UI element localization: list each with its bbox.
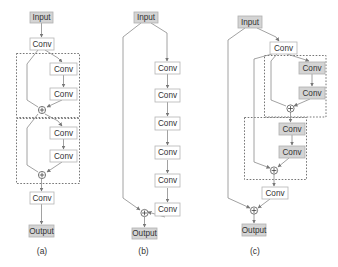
conv-node-block1-2: Conv xyxy=(299,87,325,99)
conv-node-block2-1: Conv xyxy=(279,123,305,135)
panel-b: Input Conv Conv Conv Conv Conv Conv xyxy=(123,12,180,256)
caption-b: (b) xyxy=(138,246,149,256)
conv-node-head: Conv xyxy=(270,42,297,54)
conv-node-5: Conv xyxy=(155,174,180,187)
svg-text:Conv: Conv xyxy=(158,205,178,214)
panel-c: Input Conv Conv Conv Conv Conv xyxy=(228,16,326,256)
svg-text:Conv: Conv xyxy=(158,119,178,128)
output-node: Output xyxy=(242,224,267,236)
conv-node-6: Conv xyxy=(155,203,180,216)
caption-c: (c) xyxy=(250,246,260,256)
output-node: Output xyxy=(29,225,55,237)
conv-node-block1-1: Conv xyxy=(299,62,325,74)
conv-node-2: Conv xyxy=(155,89,180,102)
conv-node-tail: Conv xyxy=(30,192,54,204)
svg-text:Conv: Conv xyxy=(158,176,178,185)
svg-text:Input: Input xyxy=(241,18,260,27)
input-node: Input xyxy=(30,12,53,23)
svg-text:Conv: Conv xyxy=(32,40,52,49)
sum-node xyxy=(141,209,148,216)
conv-node-1: Conv xyxy=(155,62,180,74)
conv-node-block1-2: Conv xyxy=(50,88,77,100)
sum-node-block1 xyxy=(38,106,45,113)
svg-text:Input: Input xyxy=(32,13,51,22)
sum-node-global xyxy=(250,207,257,214)
conv-node-4: Conv xyxy=(155,146,180,159)
conv-node-block2-1: Conv xyxy=(50,127,77,139)
conv-node-tail: Conv xyxy=(262,187,288,199)
input-node: Input xyxy=(134,12,158,23)
conv-node-block2-2: Conv xyxy=(50,150,77,162)
panel-a: Input Conv Conv Conv Conv Conv xyxy=(17,12,80,256)
svg-text:Conv: Conv xyxy=(158,148,178,157)
input-node: Input xyxy=(238,16,262,28)
output-node: Output xyxy=(132,228,158,239)
residual-architectures-diagram: Input Conv Conv Conv Conv Conv xyxy=(0,0,338,267)
svg-text:Output: Output xyxy=(132,229,157,238)
caption-a: (a) xyxy=(37,246,48,256)
svg-text:Conv: Conv xyxy=(54,152,74,161)
svg-text:Input: Input xyxy=(137,13,156,22)
svg-text:Conv: Conv xyxy=(158,64,178,73)
svg-text:Output: Output xyxy=(242,226,267,235)
svg-text:Conv: Conv xyxy=(282,125,302,134)
svg-text:Conv: Conv xyxy=(54,90,74,99)
svg-text:Conv: Conv xyxy=(54,65,74,74)
svg-text:Conv: Conv xyxy=(274,44,294,53)
svg-text:Conv: Conv xyxy=(302,89,322,98)
sum-node-block2 xyxy=(38,171,45,178)
conv-node-3: Conv xyxy=(155,117,180,130)
svg-text:Conv: Conv xyxy=(54,129,74,138)
conv-node-block1-1: Conv xyxy=(50,63,77,75)
conv-node-block2-2: Conv xyxy=(279,146,305,158)
svg-text:Output: Output xyxy=(29,227,54,236)
svg-text:Conv: Conv xyxy=(158,91,178,100)
sum-node-block1 xyxy=(287,105,294,112)
svg-text:Conv: Conv xyxy=(265,189,285,198)
svg-text:Conv: Conv xyxy=(282,148,302,157)
conv-node-head: Conv xyxy=(30,38,54,50)
svg-text:Conv: Conv xyxy=(32,194,52,203)
svg-text:Conv: Conv xyxy=(302,64,322,73)
sum-node-block2 xyxy=(270,167,277,174)
